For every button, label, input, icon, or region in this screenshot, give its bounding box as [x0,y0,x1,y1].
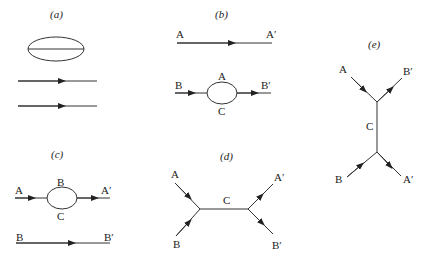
label-c: C [223,194,230,206]
label-b: B [335,173,342,185]
label-b: B [16,231,23,243]
label-a: A [171,168,179,180]
self-energy-loop [47,187,77,209]
arrow-icon [175,183,189,197]
label-a-prime: A′ [403,173,413,185]
panel-d: (d) A B C A′ B′ [171,150,284,251]
label-a: A [15,184,23,196]
arrow-icon [176,222,189,236]
feynman-diagrams-figure: (a) (b) A A′ B B′ A C (c) A A′ B C B [0,0,431,265]
self-energy-loop [207,82,237,104]
arrow-icon [377,89,391,102]
panel-e: (e) A B′ C B A′ [335,38,413,185]
arrow-icon [351,77,364,90]
label-b: B [175,79,182,91]
panel-a-label: (a) [50,8,63,21]
panel-c: (c) A A′ B C B B′ [15,148,114,243]
loop-label-a: A [218,70,226,82]
panel-d-label: (d) [220,150,233,163]
label-a: A [176,28,184,40]
label-b-prime: B′ [403,65,413,77]
panel-e-label: (e) [368,38,381,51]
panel-b-label: (b) [215,8,228,21]
arrow-icon [377,152,390,166]
panel-a: (a) [18,8,97,106]
label-b-prime: B′ [104,231,114,243]
label-a-prime: A′ [101,184,111,196]
panel-b: (b) A A′ B B′ A C [175,8,276,117]
arrow-icon [248,196,261,209]
loop-label-c: C [218,105,225,117]
label-a: A [339,63,347,75]
loop-label-c: C [57,210,64,222]
label-a-prime: A′ [274,171,284,183]
label-b-prime: B′ [261,79,271,91]
label-a-prime: A′ [266,28,276,40]
label-b-prime: B′ [272,239,282,251]
label-b: B [173,238,180,250]
loop-label-b: B [57,176,64,188]
label-c: C [366,120,373,132]
arrow-icon [248,209,262,223]
arrow-icon [347,165,361,177]
panel-c-label: (c) [51,148,64,161]
